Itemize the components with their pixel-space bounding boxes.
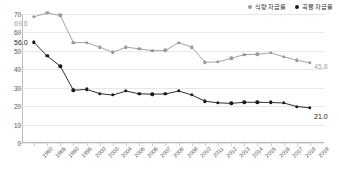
legend-label-food: 식량 자급률	[255, 2, 286, 11]
x-axis-tick-label: 2014	[251, 146, 264, 159]
series-line-food	[34, 13, 310, 63]
x-axis-tick-mark	[192, 143, 193, 146]
y-axis-tick-label: 0	[0, 140, 21, 147]
x-axis-tick-label: 2009	[186, 146, 199, 159]
x-axis-tick-label: 2010	[199, 146, 212, 159]
data-label-grain: 56.0	[14, 39, 28, 46]
gridline	[22, 143, 324, 144]
y-axis-tick-label: 20	[0, 103, 21, 110]
x-axis-tick-label: 1985	[54, 146, 67, 159]
x-axis-tick-mark	[100, 143, 101, 146]
x-axis-tick-label: 1995	[80, 146, 93, 159]
x-axis-tick-mark	[73, 143, 74, 146]
data-label-food: 69.6	[14, 19, 28, 26]
x-axis-tick-label: 2007	[159, 146, 172, 159]
x-axis-tick-mark	[47, 143, 48, 146]
data-label-grain: 21.0	[314, 112, 328, 119]
legend-item-grain[interactable]: 곡물 자급률	[295, 2, 333, 11]
x-axis-tick-label: 2016	[278, 146, 291, 159]
legend-dot-food-icon	[248, 5, 252, 9]
y-axis-tick-label: 70	[0, 11, 21, 18]
y-axis-tick-mark	[19, 143, 22, 144]
x-axis-tick-mark	[271, 143, 272, 146]
series-lines	[22, 14, 324, 143]
x-axis-tick-mark	[218, 143, 219, 146]
x-axis-tick-label: 2005	[133, 146, 146, 159]
x-axis-tick-mark	[297, 143, 298, 146]
x-axis-tick-label: 2008	[172, 146, 185, 159]
y-axis-tick-label: 40	[0, 66, 21, 73]
x-axis-tick-mark	[165, 143, 166, 146]
x-axis-tick-label: 2017	[291, 146, 304, 159]
plot-area: 010203040506070 198019851990199520002003…	[22, 14, 324, 143]
chart-container: 식량 자급률 곡물 자급률 010203040506070 1980198519…	[0, 0, 339, 170]
legend-label-grain: 곡물 자급률	[302, 2, 333, 11]
x-axis-tick-label: 2000	[94, 146, 107, 159]
data-label-food: 45.8	[314, 62, 328, 69]
x-axis-tick-mark	[152, 143, 153, 146]
x-axis-tick-mark	[257, 143, 258, 146]
y-axis-tick-label: 10	[0, 121, 21, 128]
y-axis-tick-label: 60	[0, 29, 21, 36]
x-axis-tick-mark	[113, 143, 114, 146]
x-axis-tick-mark	[205, 143, 206, 146]
x-axis-tick-mark	[179, 143, 180, 146]
x-axis-tick-mark	[310, 143, 311, 146]
x-axis-tick-label: 2011	[212, 146, 225, 159]
legend-item-food[interactable]: 식량 자급률	[248, 2, 286, 11]
x-axis-tick-mark	[87, 143, 88, 146]
x-axis-tick-label: 2018	[304, 146, 317, 159]
legend-dot-grain-icon	[295, 5, 299, 9]
chart-legend: 식량 자급률 곡물 자급률	[248, 2, 333, 11]
x-axis-tick-mark	[139, 143, 140, 146]
x-axis-tick-label: 2013	[238, 146, 251, 159]
x-axis-tick-mark	[126, 143, 127, 146]
x-axis-tick-mark	[60, 143, 61, 146]
x-axis-tick-label: 2012	[225, 146, 238, 159]
x-axis-tick-mark	[244, 143, 245, 146]
x-axis-tick-label: 2004	[120, 146, 133, 159]
x-axis-tick-label: 2006	[146, 146, 159, 159]
x-axis-tick-mark	[284, 143, 285, 146]
x-axis-tick-label: 2019	[317, 146, 330, 159]
y-axis-tick-label: 30	[0, 84, 21, 91]
x-axis-tick-label: 1980	[41, 146, 54, 159]
x-axis-tick-label: 1990	[67, 146, 80, 159]
x-axis-tick-mark	[34, 143, 35, 146]
x-axis-tick-label: 2003	[107, 146, 120, 159]
x-axis-tick-label: 2015	[264, 146, 277, 159]
x-axis-tick-mark	[231, 143, 232, 146]
y-axis-tick-label: 50	[0, 47, 21, 54]
